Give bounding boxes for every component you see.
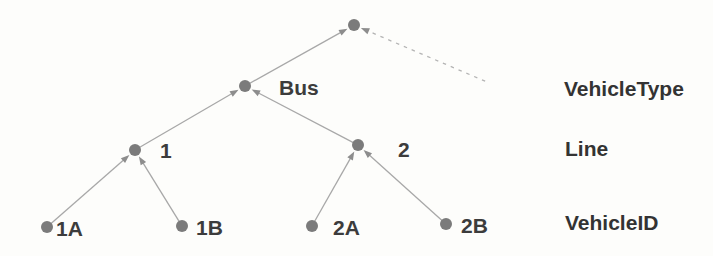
- edge-vehicle-1B-line-1: [142, 161, 181, 225]
- node-vehicle-2A: [306, 220, 318, 232]
- node-root: [348, 19, 360, 31]
- edge-vehicle-2B-line-2: [367, 153, 444, 222]
- edge-vehicle-1A-line-1: [49, 158, 126, 225]
- arrowhead-dashed-origin-root: [360, 25, 370, 34]
- node-label-line-1: 1: [160, 139, 172, 162]
- figure: Bus121A1B2A2B VehicleType Line VehicleID: [0, 0, 713, 256]
- arrowhead-bus-root: [338, 26, 349, 36]
- node-label-vehicle-2A: 2A: [333, 216, 360, 239]
- node-line-1: [129, 144, 141, 156]
- node-label-bus: Bus: [279, 76, 319, 99]
- edge-dashed-origin-root: [365, 30, 485, 81]
- level-label-vehicleid: VehicleID: [565, 211, 658, 235]
- arrowhead-vehicle-1B-line-1: [136, 155, 146, 166]
- node-vehicle-1B: [176, 220, 188, 232]
- node-line-2: [352, 139, 364, 151]
- node-label-vehicle-2B: 2B: [461, 214, 488, 237]
- level-label-vehicletype: VehicleType: [564, 77, 684, 101]
- edge-vehicle-2A-line-2: [313, 156, 352, 224]
- node-label-vehicle-1A: 1A: [56, 217, 83, 240]
- arrowhead-vehicle-2A-line-2: [347, 150, 357, 161]
- arrowhead-line-2-bus: [250, 87, 260, 97]
- node-vehicle-1A: [41, 221, 53, 233]
- level-label-line: Line: [565, 137, 608, 161]
- arrowhead-line-1-bus: [230, 87, 241, 97]
- edge-line-2-bus: [256, 92, 356, 144]
- node-label-vehicle-1B: 1B: [196, 216, 223, 239]
- node-label-line-2: 2: [398, 138, 410, 161]
- node-bus: [239, 80, 251, 92]
- node-vehicle-2B: [440, 218, 452, 230]
- edge-line-1-bus: [137, 92, 234, 149]
